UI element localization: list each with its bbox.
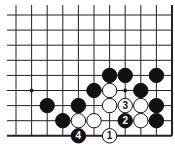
move-number: 4 (76, 130, 82, 141)
black-stone (71, 98, 85, 112)
black-stone (118, 68, 132, 82)
black-stone (149, 98, 163, 112)
black-stone-move-4: 4 (71, 129, 85, 143)
star-point (123, 89, 127, 93)
white-stone-move-3: 3 (118, 98, 132, 112)
star-point (30, 89, 34, 93)
white-stone (134, 98, 148, 112)
black-stone (87, 83, 101, 97)
white-stone (134, 114, 148, 128)
move-number: 2 (122, 115, 128, 126)
black-stone (56, 114, 70, 128)
black-stone (134, 83, 148, 97)
black-stone (149, 114, 163, 128)
white-stone-move-1: 1 (102, 129, 116, 143)
white-stone (87, 114, 101, 128)
move-number: 1 (107, 130, 113, 141)
go-board: 3241 (0, 0, 175, 150)
black-stone (102, 68, 116, 82)
white-stone (71, 114, 85, 128)
black-stone-move-2: 2 (118, 114, 132, 128)
black-stone (40, 98, 54, 112)
white-stone (102, 98, 116, 112)
black-stone (149, 68, 163, 82)
white-stone (102, 83, 116, 97)
move-number: 3 (122, 100, 128, 111)
